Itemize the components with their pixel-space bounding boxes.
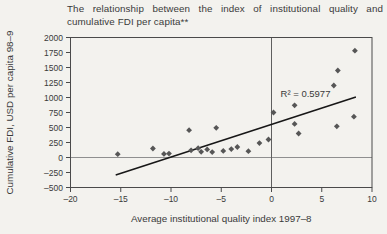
data-point — [188, 147, 194, 153]
data-point — [245, 148, 251, 154]
data-point — [220, 148, 226, 154]
data-point — [234, 144, 240, 150]
data-point — [266, 137, 272, 143]
y-tick-label: 250 — [49, 138, 63, 148]
x-tick-label: 10 — [367, 194, 377, 204]
y-tick-label: 500 — [49, 123, 63, 133]
y-tick-label: 2000 — [44, 33, 63, 43]
y-tick-label: 750 — [49, 108, 63, 118]
y-tick-label: 0 — [58, 153, 63, 163]
x-axis-title: Average institutional quality index 1997… — [131, 213, 312, 224]
data-point — [161, 151, 167, 157]
y-tick-label: –250 — [44, 168, 63, 178]
r-squared-annotation: R² = 0.5977 — [281, 88, 331, 99]
data-point — [352, 48, 358, 54]
data-point — [331, 83, 337, 89]
data-point — [296, 131, 302, 137]
trend-line — [116, 97, 356, 175]
y-tick-label: 1250 — [44, 78, 63, 88]
data-point — [213, 125, 219, 131]
data-point — [334, 123, 340, 129]
data-point — [351, 114, 357, 120]
y-tick-label: 1750 — [44, 48, 63, 58]
data-point — [204, 147, 210, 153]
data-point — [257, 140, 263, 146]
x-tick-label: 5 — [319, 194, 324, 204]
data-point — [292, 102, 298, 108]
y-tick-label: 1000 — [44, 93, 63, 103]
y-axis-ticks: –500–250025050075010001250150017502000 — [44, 33, 70, 193]
x-tick-label: –15 — [114, 194, 128, 204]
scatter-plot: –500–250025050075010001250150017502000–2… — [0, 0, 387, 234]
data-point — [186, 127, 192, 133]
y-tick-label: 1500 — [44, 63, 63, 73]
data-point — [292, 121, 298, 127]
y-axis-title: Cumulative FDI, USD per capita 98–9 — [4, 31, 15, 195]
data-point — [209, 149, 215, 155]
data-point — [335, 68, 341, 74]
x-axis-ticks: –20–15–10–50510 — [63, 188, 377, 205]
x-tick-label: –5 — [217, 194, 227, 204]
x-tick-label: 0 — [269, 194, 274, 204]
x-tick-label: –10 — [164, 194, 178, 204]
x-tick-label: –20 — [63, 194, 77, 204]
data-point — [150, 146, 156, 152]
plot-frame — [71, 38, 373, 188]
figure: The relationship between the index of in… — [0, 0, 387, 234]
y-tick-label: –500 — [44, 183, 63, 193]
data-point — [115, 151, 121, 157]
data-point — [166, 151, 172, 157]
scatter-points — [115, 48, 358, 157]
data-point — [228, 146, 234, 152]
